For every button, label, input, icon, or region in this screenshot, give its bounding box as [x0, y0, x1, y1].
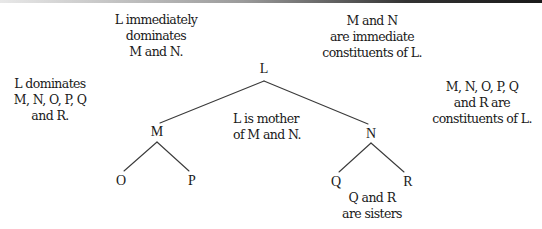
- annotation-sisters: Q and R are sisters: [342, 190, 402, 222]
- annotation-line: M and N: [322, 13, 422, 29]
- annotation-line: L dominates: [14, 76, 87, 92]
- annotation-line: are sisters: [342, 206, 402, 222]
- annotation-line: constituents of L.: [432, 111, 532, 127]
- annotation-line: L is mother: [233, 111, 301, 127]
- annotation-dominates: L dominates M, N, O, P, Q and R.: [14, 76, 87, 124]
- node-O: O: [111, 174, 131, 188]
- annotation-constituents: M, N, O, P, Q and R are constituents of …: [432, 79, 532, 127]
- edge-M-O: [124, 142, 157, 171]
- annotation-line: dominates: [115, 28, 198, 44]
- node-L: L: [254, 62, 274, 76]
- annotation-line: constituents of L.: [322, 45, 422, 61]
- annotation-immediate-constituents: M and N are immediate constituents of L.: [322, 13, 422, 61]
- annotation-line: M, N, O, P, Q: [14, 92, 87, 108]
- node-Q: Q: [326, 175, 346, 189]
- node-N: N: [361, 127, 381, 141]
- annotation-line: and R are: [432, 95, 532, 111]
- annotation-line: of M and N.: [233, 127, 301, 143]
- edge-N-R: [371, 143, 404, 172]
- annotation-line: are immediate: [322, 29, 422, 45]
- node-P: P: [182, 174, 202, 188]
- annotation-line: L immediately: [115, 12, 198, 28]
- edge-M-P: [157, 142, 189, 171]
- node-R: R: [398, 175, 418, 189]
- annotation-immediately-dominates: L immediately dominates M and N.: [115, 12, 198, 60]
- annotation-mother: L is mother of M and N.: [233, 111, 301, 143]
- annotation-line: M, N, O, P, Q: [432, 79, 532, 95]
- edge-N-Q: [339, 143, 371, 172]
- annotation-line: and R.: [14, 108, 87, 124]
- node-M: M: [147, 125, 167, 139]
- annotation-line: Q and R: [342, 190, 402, 206]
- annotation-line: M and N.: [115, 44, 198, 60]
